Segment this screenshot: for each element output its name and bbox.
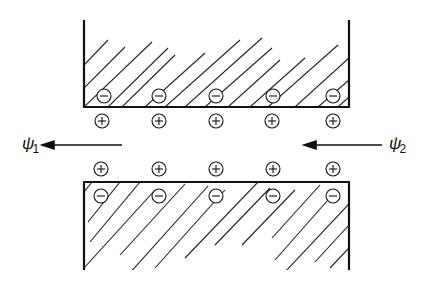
plus-charge-icon [266, 162, 280, 176]
psi-2-label: ψ2 [389, 134, 406, 156]
plus-charge-icon [152, 162, 166, 176]
psi-subscript: 2 [399, 142, 406, 156]
bottom-wall-negative-charges [94, 189, 340, 203]
plus-charge-icon [152, 114, 166, 128]
double-layer-diagram [0, 0, 425, 283]
plus-charge-icon [326, 162, 340, 176]
psi-1-label: ψ1 [22, 134, 39, 156]
psi-subscript: 1 [32, 142, 39, 156]
minus-charge-icon [94, 189, 108, 203]
plus-charge-icon [95, 114, 109, 128]
bottom-counter-ions [94, 162, 340, 176]
plus-charge-icon [94, 162, 108, 176]
left-arrow [42, 141, 122, 149]
minus-charge-icon [152, 89, 166, 103]
minus-charge-icon [326, 89, 340, 103]
top-counter-ions [95, 114, 340, 128]
minus-charge-icon [152, 189, 166, 203]
minus-charge-icon [266, 89, 280, 103]
plus-charge-icon [209, 114, 223, 128]
minus-charge-icon [326, 189, 340, 203]
minus-charge-icon [209, 189, 223, 203]
minus-charge-icon [209, 89, 223, 103]
minus-charge-icon [97, 89, 111, 103]
plus-charge-icon [209, 162, 223, 176]
plus-charge-icon [265, 114, 279, 128]
minus-charge-icon [266, 189, 280, 203]
plus-charge-icon [326, 114, 340, 128]
right-arrow [304, 141, 382, 149]
